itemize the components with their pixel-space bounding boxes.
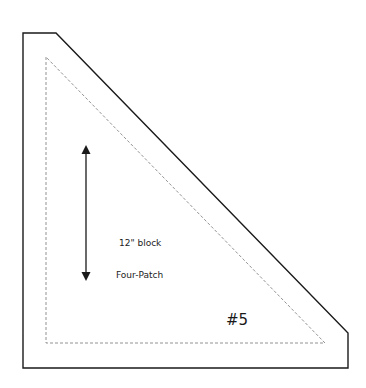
- piece-number-label: #5: [226, 311, 248, 329]
- pattern-piece-diagram: [0, 0, 366, 388]
- block-size-label: 12" block: [119, 238, 161, 248]
- block-name-label: Four-Patch: [116, 270, 163, 280]
